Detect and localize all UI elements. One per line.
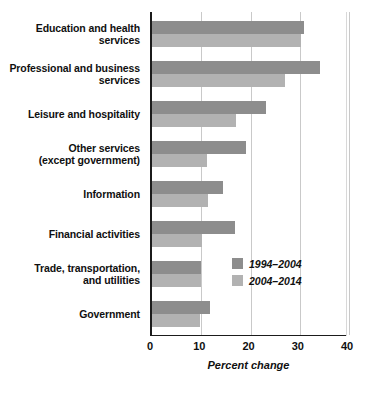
- category-label-line: Trade, transportation,: [0, 262, 140, 275]
- bar-0-2: [152, 101, 266, 114]
- category-label-line: Professional and business: [0, 62, 140, 75]
- bar-0-0: [152, 21, 304, 34]
- x-tick-label-10: 10: [193, 340, 205, 352]
- category-label-4: Information: [0, 188, 140, 201]
- category-label-line: Other services: [0, 142, 140, 155]
- bar-1-7: [152, 314, 200, 327]
- gridline-40: [349, 12, 350, 335]
- category-label-3: Other services(except government): [0, 142, 140, 167]
- x-tick-label-30: 30: [292, 340, 304, 352]
- plot-right-edge: [346, 12, 347, 336]
- bar-1-6: [152, 274, 201, 287]
- category-label-2: Leisure and hospitality: [0, 108, 140, 121]
- category-label-line: services: [0, 34, 140, 47]
- category-label-column: Education and healthservicesProfessional…: [0, 0, 146, 340]
- category-label-line: and utilities: [0, 274, 140, 287]
- category-label-6: Trade, transportation,and utilities: [0, 262, 140, 287]
- bar-0-5: [152, 221, 235, 234]
- category-label-line: (except government): [0, 154, 140, 167]
- x-tick-label-0: 0: [147, 340, 153, 352]
- category-label-line: Leisure and hospitality: [0, 108, 140, 121]
- legend-swatch-icon: [232, 258, 243, 269]
- legend-label: 1994–2004: [249, 258, 302, 270]
- bar-0-1: [152, 61, 320, 74]
- legend-label: 2004–2014: [249, 275, 302, 287]
- bar-1-5: [152, 234, 202, 247]
- bar-1-2: [152, 114, 236, 127]
- legend: 1994–20042004–2014: [232, 256, 302, 290]
- x-tick-label-20: 20: [242, 340, 254, 352]
- category-label-line: Financial activities: [0, 228, 140, 241]
- bar-0-7: [152, 301, 210, 314]
- legend-item-1[interactable]: 2004–2014: [232, 273, 302, 288]
- bar-1-0: [152, 34, 301, 47]
- bar-0-4: [152, 181, 223, 194]
- category-label-line: Information: [0, 188, 140, 201]
- bar-chart: Education and healthservicesProfessional…: [0, 0, 365, 396]
- category-label-1: Professional and businessservices: [0, 62, 140, 87]
- category-label-line: services: [0, 74, 140, 87]
- category-label-line: Education and health: [0, 22, 140, 35]
- category-label-7: Government: [0, 308, 140, 321]
- bar-0-3: [152, 141, 246, 154]
- bar-1-1: [152, 74, 285, 87]
- bar-1-3: [152, 154, 207, 167]
- x-tick-label-40: 40: [341, 340, 353, 352]
- bar-1-4: [152, 194, 208, 207]
- category-label-line: Government: [0, 308, 140, 321]
- bar-0-6: [152, 261, 201, 274]
- x-axis-title: Percent change: [150, 359, 347, 371]
- category-label-0: Education and healthservices: [0, 22, 140, 47]
- legend-item-0[interactable]: 1994–2004: [232, 256, 302, 271]
- category-label-5: Financial activities: [0, 228, 140, 241]
- legend-swatch-icon: [232, 275, 243, 286]
